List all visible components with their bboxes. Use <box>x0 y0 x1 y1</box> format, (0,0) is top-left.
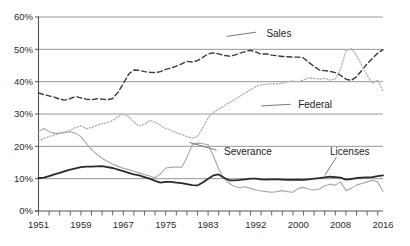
series-label-severance: Severance <box>224 146 272 157</box>
x-tick-label-1992: 1992 <box>245 219 266 230</box>
leader-line-sales <box>227 32 256 36</box>
series-line-federal <box>39 49 384 142</box>
x-tick-label-1951: 1951 <box>28 219 49 230</box>
line-chart: 0%10%20%30%40%50%60% 1951195919671975198… <box>0 0 410 246</box>
y-tick-label-60: 60% <box>14 11 34 22</box>
x-tick-label-2008: 2008 <box>330 219 351 230</box>
y-tick-label-10: 10% <box>14 173 34 184</box>
y-tick-label-0: 0% <box>19 205 33 216</box>
x-tick-label-1983: 1983 <box>198 219 219 230</box>
series-label-licenses: Licenses <box>330 146 369 157</box>
x-tick-label-1975: 1975 <box>155 219 176 230</box>
x-tick-label-2016: 2016 <box>372 219 393 230</box>
leader-line-licenses <box>325 157 337 175</box>
y-tick-label-30: 30% <box>14 108 34 119</box>
leader-line-federal <box>261 104 291 106</box>
series-label-sales: Sales <box>266 28 291 39</box>
x-tick-label-1967: 1967 <box>113 219 134 230</box>
series-group <box>39 49 384 193</box>
y-tick-labels-group: 0%10%20%30%40%50%60% <box>14 11 39 216</box>
x-tick-label-2000: 2000 <box>288 219 309 230</box>
x-tick-labels-group: 195119591967197519831992200020082016 <box>28 219 394 230</box>
y-tick-label-50: 50% <box>14 44 34 55</box>
x-axis-group <box>35 211 384 216</box>
series-line-sales <box>39 50 384 100</box>
x-tick-label-1959: 1959 <box>70 219 91 230</box>
chart-canvas: 0%10%20%30%40%50%60% 1951195919671975198… <box>0 0 410 246</box>
y-tick-label-40: 40% <box>14 76 34 87</box>
y-tick-label-20: 20% <box>14 141 34 152</box>
series-label-federal: Federal <box>298 99 332 110</box>
series-line-licenses <box>39 166 384 185</box>
series-line-severance <box>39 129 384 193</box>
